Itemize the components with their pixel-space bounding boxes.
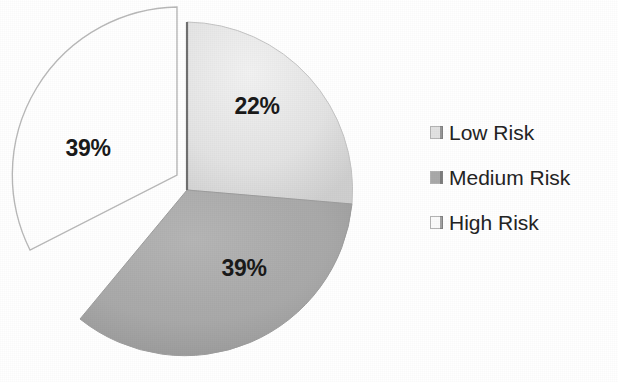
pie-chart-figure: 22% 39% 39% Low Risk Medium Risk [0, 0, 618, 382]
legend-swatch-medium-risk-icon [430, 171, 443, 184]
slice-label-medium-risk: 39% [221, 255, 266, 281]
legend-item-high-risk[interactable]: High Risk [430, 200, 618, 245]
pie-slice-medium-risk[interactable] [80, 190, 352, 356]
legend-label-medium-risk: Medium Risk [449, 167, 570, 188]
legend-label-high-risk: High Risk [449, 212, 539, 233]
slice-label-low-risk: 22% [234, 93, 279, 119]
legend-item-low-risk[interactable]: Low Risk [430, 110, 618, 155]
legend-swatch-high-risk-icon [430, 216, 443, 229]
pie-slice-high-risk[interactable] [12, 7, 177, 250]
legend-swatch-low-risk-icon [430, 126, 443, 139]
pie-svg: 22% 39% 39% [0, 0, 400, 382]
chart-legend: Low Risk Medium Risk High Risk [430, 110, 618, 245]
slice-label-high-risk: 39% [65, 135, 110, 161]
pie-plot-area: 22% 39% 39% [0, 0, 400, 382]
legend-item-medium-risk[interactable]: Medium Risk [430, 155, 618, 200]
legend-label-low-risk: Low Risk [449, 122, 534, 143]
